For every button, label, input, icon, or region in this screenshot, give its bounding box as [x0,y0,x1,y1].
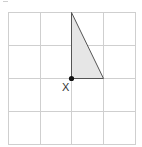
grid-diagram [0,0,142,147]
point-x [69,76,74,81]
point-label: X [62,82,69,93]
